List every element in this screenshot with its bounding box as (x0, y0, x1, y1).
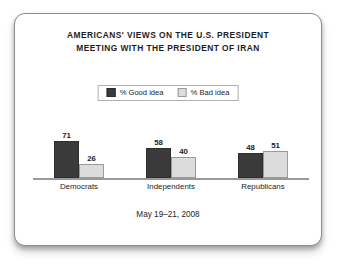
chart-footnote-date: May 19–21, 2008 (15, 210, 321, 219)
bar-value-republicans-bad-idea: 51 (263, 141, 288, 152)
bar-rect-independents-bad-idea (171, 157, 196, 178)
legend-label-good-idea: % Good idea (120, 88, 164, 97)
chart-category-labels: Democrats Independents Republicans (33, 182, 309, 191)
chart-title-line-1: AMERICANS' VIEWS ON THE U.S. PRESIDENT (15, 29, 321, 42)
bar-republicans-good-idea: 48 (238, 153, 263, 178)
category-label-independents: Independents (146, 182, 196, 191)
chart-legend: % Good idea % Bad idea (98, 85, 239, 101)
light-swatch-icon (178, 88, 187, 97)
bar-value-independents-good-idea: 58 (146, 138, 171, 149)
bar-independents-good-idea: 58 (146, 148, 171, 178)
bar-value-republicans-good-idea: 48 (238, 143, 263, 154)
bar-group-republicans: 48 51 (238, 151, 288, 178)
bar-rect-democrats-good-idea (54, 141, 79, 178)
bar-democrats-good-idea: 71 (54, 141, 79, 178)
chart-card: AMERICANS' VIEWS ON THE U.S. PRESIDENT M… (14, 13, 322, 246)
chart-baseline-axis (33, 178, 309, 180)
bar-value-democrats-good-idea: 71 (54, 131, 79, 142)
bar-group-democrats: 71 26 (54, 141, 104, 178)
legend-label-bad-idea: % Bad idea (191, 88, 230, 97)
bar-independents-bad-idea: 40 (171, 157, 196, 178)
bar-rect-democrats-bad-idea (79, 164, 104, 178)
legend-item-good-idea: % Good idea (107, 88, 164, 97)
bar-value-democrats-bad-idea: 26 (79, 154, 104, 165)
dark-swatch-icon (107, 88, 116, 97)
bar-group-independents: 58 40 (146, 148, 196, 178)
bar-rect-republicans-good-idea (238, 153, 263, 178)
legend-item-bad-idea: % Bad idea (178, 88, 230, 97)
category-label-democrats: Democrats (54, 182, 104, 191)
bar-value-independents-bad-idea: 40 (171, 147, 196, 158)
chart-title-line-2: MEETING WITH THE PRESIDENT OF IRAN (15, 42, 321, 55)
chart-bar-groups: 71 26 58 40 48 51 (33, 118, 309, 178)
chart-title: AMERICANS' VIEWS ON THE U.S. PRESIDENT M… (15, 29, 321, 54)
bar-democrats-bad-idea: 26 (79, 164, 104, 178)
bar-republicans-bad-idea: 51 (263, 151, 288, 178)
category-label-republicans: Republicans (238, 182, 288, 191)
bar-rect-republicans-bad-idea (263, 151, 288, 178)
bar-rect-independents-good-idea (146, 148, 171, 178)
